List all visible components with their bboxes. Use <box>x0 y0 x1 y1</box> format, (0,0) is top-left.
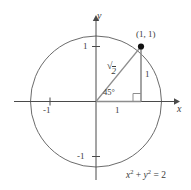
equation-rhs: 2 <box>161 170 166 180</box>
y-axis-label: y <box>97 11 101 21</box>
diagram-canvas <box>0 0 191 190</box>
circle-equation: x2 + y2 = 2 <box>126 169 166 181</box>
vertical-leg-label: 1 <box>145 70 150 79</box>
y-tick-label-minus-one: -1 <box>77 152 85 161</box>
radicand-value: 2 <box>112 66 117 76</box>
y-tick-label-one: 1 <box>83 42 88 51</box>
horizontal-leg-label: 1 <box>115 106 120 115</box>
x-axis-label: x <box>177 104 181 114</box>
right-angle-marker <box>133 94 141 102</box>
equation-plus: + <box>133 170 143 180</box>
circle-diagram-figure: y x 1 -1 -1 1 (1, 1) 1 45° √2 x2 + y2 = … <box>0 0 191 190</box>
point-label: (1, 1) <box>136 30 156 39</box>
x-tick-label-minus-one: -1 <box>43 106 51 115</box>
angle-label: 45° <box>103 88 115 97</box>
equation-equals: = <box>151 170 161 180</box>
data-point <box>138 43 144 49</box>
hypotenuse-label: √2 <box>107 60 116 78</box>
